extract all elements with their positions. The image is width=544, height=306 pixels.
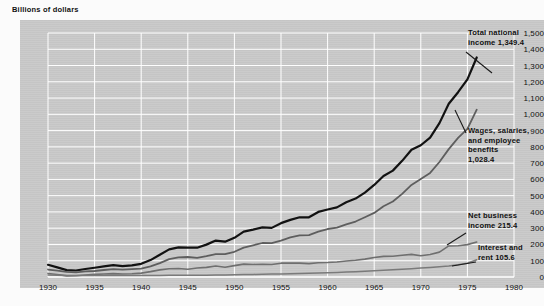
x-axis-tick-label: 1950	[225, 283, 243, 292]
x-axis-tick-label: 1935	[85, 283, 103, 292]
annotation-net-business-income: Net businessincome 215.4	[468, 211, 518, 230]
annotation-line: and employee	[468, 136, 529, 146]
x-axis-tick-label: 1955	[272, 283, 290, 292]
annotation-line: benefits	[468, 145, 529, 155]
chart-canvas	[0, 0, 544, 306]
annotation-line: rent 105.6	[478, 253, 523, 263]
annotation-line: income 1,349.4	[468, 38, 524, 48]
x-axis-tick-label: 1940	[132, 283, 150, 292]
y-axis-tick-label: 1,100	[504, 94, 544, 103]
annotation-leader-line	[466, 52, 492, 73]
annotation-interest-and-rent: Interest andrent 105.6	[478, 243, 523, 262]
annotation-line: Wages, salaries,	[468, 126, 529, 136]
y-axis-tick-label: 500	[504, 191, 544, 200]
x-axis-tick-label: 1980	[505, 283, 523, 292]
x-axis-tick-label: 1975	[458, 283, 476, 292]
series-group	[48, 58, 477, 276]
y-axis-tick-label: 1,000	[504, 110, 544, 119]
y-axis-tick-label: 1,200	[504, 77, 544, 86]
annotation-line: income 215.4	[468, 221, 518, 231]
series-line-1	[48, 110, 477, 273]
chart-figure: Billions of dollars 01002003004005006007…	[0, 0, 544, 306]
annotation-leader-line	[447, 233, 466, 245]
x-axis-tick-label: 1965	[365, 283, 383, 292]
annotation-line: Net business	[468, 211, 518, 221]
y-axis-tick-label: 1,300	[504, 61, 544, 70]
annotation-line: Total national	[468, 28, 524, 38]
x-axis-tick-label: 1960	[318, 283, 336, 292]
annotation-leader-line	[452, 262, 476, 266]
y-axis-tick-label: 600	[504, 175, 544, 184]
annotation-leader-line	[455, 110, 466, 133]
series-line-2	[48, 242, 477, 276]
annotation-line: 1,028.4	[468, 155, 529, 165]
annotation-line: Interest and	[478, 243, 523, 253]
series-line-0	[48, 58, 477, 271]
y-axis-tick-label: 0	[504, 273, 544, 282]
annotation-total-national-income: Total nationalincome 1,349.4	[468, 28, 524, 47]
x-axis-tick-label: 1970	[412, 283, 430, 292]
x-axis-tick-label: 1945	[179, 283, 197, 292]
x-axis-tick-label: 1930	[39, 283, 57, 292]
annotation-wages-salaries-benefits: Wages, salaries,and employeebenefits1,02…	[468, 126, 529, 164]
